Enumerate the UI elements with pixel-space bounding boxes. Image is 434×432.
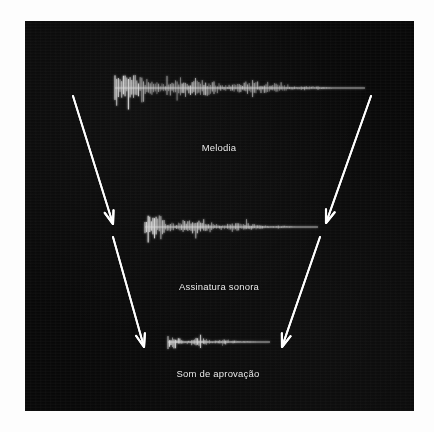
arrow-group: [73, 96, 371, 347]
figure-root: Melodia Assinatura sonora Som de aprovaç…: [0, 0, 434, 432]
caption-assinatura-sonora: Assinatura sonora: [179, 281, 259, 292]
approval-sound-waveform: [168, 335, 270, 349]
diagram-canvas: [25, 21, 414, 411]
diagram-panel: Melodia Assinatura sonora Som de aprovaç…: [25, 21, 414, 411]
arrow-left-melody-to-signature: [73, 96, 114, 224]
arrow-left-signature-to-approval: [113, 237, 145, 347]
caption-som-de-aprovacao: Som de aprovação: [177, 368, 260, 379]
waveform-group: [115, 75, 365, 349]
melody-waveform: [115, 75, 365, 109]
arrow-right-signature-to-approval: [282, 237, 320, 347]
arrow-right-melody-to-signature: [326, 96, 371, 223]
sound-signature-waveform: [145, 215, 318, 242]
caption-melodia: Melodia: [202, 142, 237, 153]
